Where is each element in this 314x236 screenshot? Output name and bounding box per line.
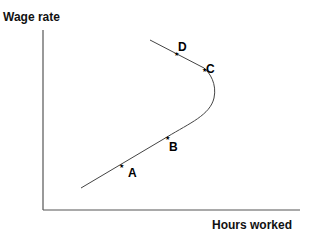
star-marker-icon: ★ — [119, 163, 124, 169]
supply-curve — [81, 40, 215, 188]
svg-text:D: D — [178, 40, 187, 54]
svg-text:A: A — [128, 166, 137, 180]
point-c: ★ C — [202, 62, 216, 76]
svg-text:C: C — [206, 62, 215, 76]
point-a: ★ A — [119, 163, 138, 180]
svg-text:B: B — [169, 140, 178, 154]
point-b: ★ B — [165, 135, 179, 154]
point-d: ★ D — [174, 40, 188, 57]
labour-supply-diagram: ★ A ★ B ★ C ★ D — [0, 0, 314, 236]
